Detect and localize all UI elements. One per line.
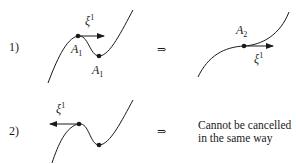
row1-right-xi-label: ξ1 <box>254 52 263 65</box>
row1-a1-min-label: A1 <box>92 64 103 79</box>
row1-xi-label: ξ1 <box>85 14 94 27</box>
point-row2-max <box>77 122 82 127</box>
xi-superscript: 1 <box>90 13 94 22</box>
point-a1-min <box>97 54 102 59</box>
label-subscript: 1 <box>99 70 103 79</box>
row2-note: Cannot be cancelled in the same way <box>198 119 296 145</box>
point-row2-min <box>97 143 102 148</box>
row2-xi-label: ξ1 <box>56 102 65 115</box>
xi-superscript: 1 <box>61 101 65 110</box>
row1-a2-label: A2 <box>236 24 247 39</box>
point-a1-max <box>76 34 81 39</box>
note-line-1: Cannot be cancelled <box>198 119 296 132</box>
note-line-2: in the same way <box>198 132 296 145</box>
point-a2 <box>242 44 247 49</box>
row1-index: 1) <box>9 41 19 53</box>
label-subscript: 2 <box>243 30 247 39</box>
row2-index: 2) <box>9 125 19 137</box>
xi-superscript: 1 <box>259 51 263 60</box>
row1-implies-arrow: ⇒ <box>157 44 166 55</box>
row2-implies-arrow: ⇒ <box>157 126 166 137</box>
label-subscript: 1 <box>78 49 82 58</box>
row1-a1-max-label: A1 <box>71 43 82 58</box>
